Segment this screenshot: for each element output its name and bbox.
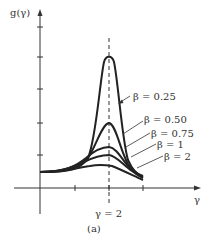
caption: (a) [87, 223, 101, 234]
y-axis-arrow [38, 9, 43, 16]
x-axis-arrow [194, 186, 201, 191]
legend-beta-1: β = 1 [157, 139, 184, 150]
chart: g(γ) γ γ = 2 (a) β = 0.25 β = 0.50 β = 0… [0, 0, 213, 246]
curves [40, 57, 143, 180]
legend-beta-0.75: β = 0.75 [151, 128, 194, 139]
legend-beta-0.50: β = 0.50 [144, 114, 187, 125]
center-label: γ = 2 [95, 208, 122, 219]
legend-beta-0.25: β = 0.25 [133, 91, 176, 102]
axes [14, 9, 201, 214]
legend-beta-2: β = 2 [164, 151, 191, 162]
y-axis-label: g(γ) [10, 7, 30, 18]
x-axis-label: γ [194, 194, 200, 205]
